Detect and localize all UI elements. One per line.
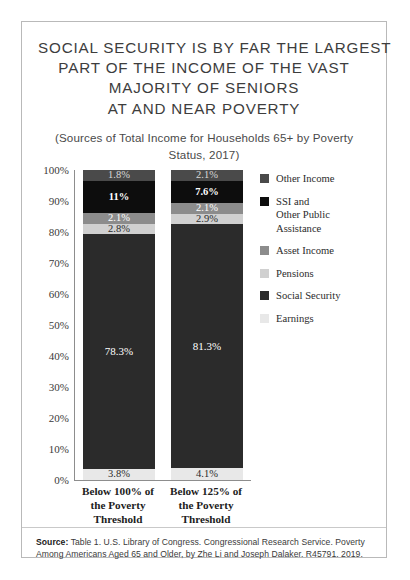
y-axis-tick: 30%: [49, 381, 69, 393]
source-note: Source: Table 1. U.S. Library of Congres…: [36, 536, 373, 561]
legend-item[interactable]: SSI and Other Public Assistance: [260, 195, 384, 236]
legend-swatch-icon: [260, 269, 269, 278]
bar-segment[interactable]: 4.1%: [171, 468, 243, 480]
bar-segment-label: 11%: [109, 192, 129, 203]
bar-segment-label: 2.1%: [196, 170, 218, 181]
x-axis-label: Below 125% of the Poverty Threshold: [163, 484, 249, 526]
bar-segment[interactable]: 81.3%: [171, 224, 243, 467]
stacked-bar[interactable]: 2.1%7.6%2.1%2.9%81.3%4.1%: [171, 170, 243, 480]
chart-title: SOCIAL SECURITY IS BY FAR THE LARGEST PA…: [38, 38, 370, 119]
title-line-4: AT AND NEAR POVERTY: [38, 99, 370, 119]
legend-swatch-icon: [260, 197, 269, 206]
legend-item-label: Other Income: [276, 172, 335, 186]
title-line-1: SOCIAL SECURITY IS BY FAR THE LARGEST: [38, 38, 370, 58]
y-axis-tick: 10%: [49, 443, 69, 455]
chart-card: SOCIAL SECURITY IS BY FAR THE LARGEST PA…: [21, 21, 387, 558]
plot-area: 1.8%11%2.1%2.8%78.3%3.8%2.1%7.6%2.1%2.9%…: [74, 170, 251, 481]
legend-item-label: Asset Income: [276, 244, 334, 258]
y-axis-tick: 90%: [49, 195, 69, 207]
bar-segment[interactable]: 3.8%: [83, 469, 155, 480]
legend-swatch-icon: [260, 174, 269, 183]
bar-segment-label: 3.8%: [108, 469, 130, 480]
y-axis-tick: 60%: [49, 288, 69, 300]
bar-group: 1.8%11%2.1%2.8%78.3%3.8%2.1%7.6%2.1%2.9%…: [75, 170, 251, 480]
bar-segment[interactable]: 1.8%: [83, 170, 155, 181]
chart-area: 100%90%80%70%60%50%40%30%20%10%0% 1.8%11…: [22, 170, 386, 525]
bar-segment[interactable]: 7.6%: [171, 181, 243, 204]
legend-item[interactable]: Social Security: [260, 289, 384, 303]
bar-segment[interactable]: 11%: [83, 181, 155, 214]
bar-segment[interactable]: 78.3%: [83, 234, 155, 468]
title-line-2: PART OF THE INCOME OF THE VAST: [38, 58, 370, 78]
legend-item-label: Social Security: [276, 289, 340, 303]
bar-segment-label: 1.8%: [108, 170, 130, 181]
y-axis-tick: 20%: [49, 412, 69, 424]
bar-segment[interactable]: 2.9%: [171, 214, 243, 225]
legend-swatch-icon: [260, 246, 269, 255]
y-axis: 100%90%80%70%60%50%40%30%20%10%0%: [22, 170, 74, 480]
legend-item[interactable]: Other Income: [260, 172, 384, 186]
bar-segment-label: 7.6%: [195, 187, 219, 198]
legend-item[interactable]: Pensions: [260, 267, 384, 281]
bar-segment[interactable]: 2.1%: [171, 170, 243, 181]
legend-item[interactable]: Earnings: [260, 312, 384, 326]
y-axis-tick: 0%: [54, 474, 69, 486]
bar-segment-label: 78.3%: [105, 346, 133, 357]
chart-subtitle: (Sources of Total Income for Households …: [52, 130, 356, 164]
legend-swatch-icon: [260, 314, 269, 323]
y-axis-tick: 80%: [49, 226, 69, 238]
legend-item-label: SSI and Other Public Assistance: [276, 195, 330, 236]
legend-swatch-icon: [260, 291, 269, 300]
bar-segment-label: 2.9%: [196, 214, 218, 225]
y-axis-tick: 50%: [49, 319, 69, 331]
source-divider: [22, 527, 386, 528]
legend-item-label: Pensions: [276, 267, 314, 281]
source-label: Source:: [36, 537, 68, 547]
legend-item[interactable]: Asset Income: [260, 244, 384, 258]
bar-segment-label: 4.1%: [196, 469, 218, 480]
bar-segment-label: 2.8%: [108, 224, 130, 235]
title-line-3: MAJORITY OF SENIORS: [38, 78, 370, 98]
y-axis-tick: 100%: [43, 164, 69, 176]
y-axis-tick: 40%: [49, 350, 69, 362]
y-axis-tick: 70%: [49, 257, 69, 269]
legend-item-label: Earnings: [276, 312, 314, 326]
chart-legend: Other IncomeSSI and Other Public Assista…: [260, 172, 384, 334]
x-axis-labels: Below 100% of the Poverty ThresholdBelow…: [74, 484, 250, 526]
source-text: Table 1. U.S. Library of Congress. Congr…: [36, 537, 365, 559]
bar-segment-label: 81.3%: [193, 341, 221, 352]
x-axis-label: Below 100% of the Poverty Threshold: [75, 484, 161, 526]
stacked-bar[interactable]: 1.8%11%2.1%2.8%78.3%3.8%: [83, 170, 155, 480]
bar-segment[interactable]: 2.8%: [83, 224, 155, 235]
